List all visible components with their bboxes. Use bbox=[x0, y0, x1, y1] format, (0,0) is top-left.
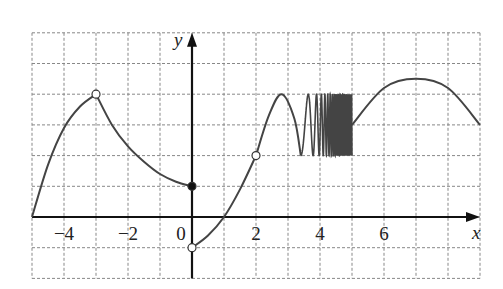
x-axis-label: x bbox=[471, 222, 481, 243]
tick-labels: −4−20246xy bbox=[54, 29, 481, 244]
open-point bbox=[188, 244, 196, 252]
x-tick-label: −2 bbox=[118, 223, 138, 244]
x-tick-label: −4 bbox=[54, 223, 75, 244]
function-graph: −4−20246xy bbox=[0, 0, 503, 289]
open-point bbox=[252, 152, 260, 160]
x-tick-label: 4 bbox=[315, 223, 325, 244]
filled-point bbox=[188, 182, 196, 190]
open-point bbox=[92, 90, 100, 98]
x-tick-label: 0 bbox=[176, 223, 186, 244]
x-tick-label: 6 bbox=[379, 223, 389, 244]
segment-2 bbox=[96, 94, 192, 186]
y-axis-label: y bbox=[172, 29, 183, 50]
x-tick-label: 2 bbox=[251, 223, 261, 244]
